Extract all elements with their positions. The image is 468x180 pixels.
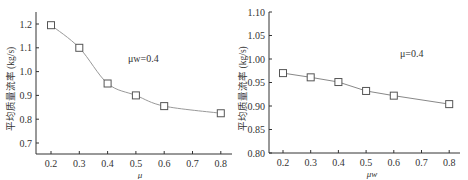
x-tick-label: 0.6	[388, 157, 401, 168]
y-tick-label: 0.7	[20, 138, 33, 149]
data-point-square-icon	[76, 44, 83, 51]
annotation: μ=0.4	[400, 48, 424, 59]
x-tick-label: 0.4	[101, 158, 114, 169]
data-point-square-icon	[280, 70, 287, 77]
chart-canvas: 0.70.80.91.01.11.20.20.30.40.50.60.70.8μ…	[0, 0, 468, 179]
data-point-square-icon	[390, 92, 397, 99]
x-tick-label: 0.3	[73, 158, 86, 169]
x-tick-label: 0.2	[277, 157, 290, 168]
x-tick-label: 0.7	[415, 157, 428, 168]
x-tick-label: 0.2	[45, 158, 58, 169]
y-tick-label: 1.1	[20, 42, 33, 53]
x-tick-label: 0.5	[130, 158, 143, 169]
x-tick-label: 0.6	[158, 158, 171, 169]
y-tick-label: 1.05	[248, 30, 266, 41]
y-tick-label: 0.85	[248, 124, 266, 135]
y-tick-label: 1.0	[20, 66, 33, 77]
x-tick-label: 0.7	[186, 158, 199, 169]
x-axis-label: μ	[137, 170, 143, 179]
y-tick-label: 0.9	[20, 90, 33, 101]
data-point-square-icon	[161, 103, 168, 110]
chart-panel-2: 0.800.850.900.951.001.051.100.20.30.40.5…	[237, 7, 460, 180]
data-point-square-icon	[132, 92, 139, 99]
y-tick-label: 1.10	[248, 7, 266, 18]
y-tick-label: 1.2	[20, 19, 33, 30]
data-point-square-icon	[446, 101, 453, 108]
x-tick-label: 0.3	[304, 157, 317, 168]
data-point-square-icon	[363, 87, 370, 94]
y-tick-label: 0.90	[248, 101, 266, 112]
chart-panel-1: 0.70.80.91.01.11.20.20.30.40.50.60.70.8μ…	[5, 12, 232, 179]
data-point-square-icon	[104, 80, 111, 87]
x-tick-label: 0.8	[215, 158, 228, 169]
y-tick-label: 0.8	[20, 114, 33, 125]
data-point-square-icon	[307, 74, 314, 81]
y-axis-label: 平均质量流率 (kg/s)	[237, 46, 249, 131]
x-tick-label: 0.8	[443, 157, 456, 168]
data-point-square-icon	[48, 22, 55, 29]
figure: 0.70.80.91.01.11.20.20.30.40.50.60.70.8μ…	[0, 0, 468, 179]
x-axis-label: μw	[366, 169, 378, 179]
annotation: μw=0.4	[128, 53, 159, 64]
x-tick-label: 0.5	[360, 157, 373, 168]
y-axis-label: 平均质量流率 (kg/s)	[5, 47, 17, 132]
data-point-square-icon	[217, 110, 224, 117]
series-line	[51, 25, 221, 113]
y-tick-label: 0.80	[248, 148, 266, 159]
y-tick-label: 1.00	[248, 54, 266, 65]
data-point-square-icon	[335, 79, 342, 86]
y-tick-label: 0.95	[248, 77, 266, 88]
x-tick-label: 0.4	[332, 157, 345, 168]
